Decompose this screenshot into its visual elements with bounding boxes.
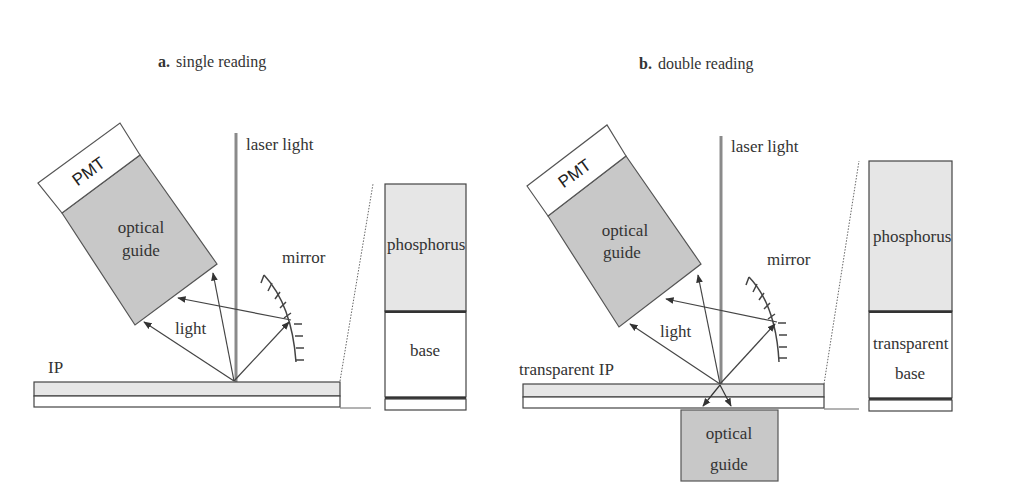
transparent-base-label-line1: transparent	[873, 334, 949, 353]
ip-label: IP	[48, 358, 63, 377]
lower-guide-label-line1: optical	[706, 424, 753, 443]
panel-a-title: a.single reading	[158, 53, 266, 71]
base-label: base	[410, 341, 440, 360]
panel-b-double-reading: b.double reading PMT optical guide laser…	[519, 55, 952, 481]
optical-guide-label-line1: optical	[118, 218, 165, 237]
pmt-guide-assembly-b: PMT optical guide	[527, 125, 701, 327]
light-label: light	[175, 319, 206, 338]
light-label: light	[660, 322, 691, 341]
ip-base-layer	[34, 396, 340, 407]
mirror-label: mirror	[767, 250, 811, 269]
panel-a-single-reading: a.single reading PMT optical guide laser…	[34, 53, 466, 410]
cross-section-inset: phosphorus transparent base	[869, 161, 952, 411]
optical-guide-label-line1: optical	[602, 221, 649, 240]
zoom-guide-line	[824, 161, 859, 384]
lower-optical-guide: optical guide	[681, 410, 778, 481]
lower-guide-label-line2: guide	[710, 455, 748, 474]
phosphorus-label: phosphorus	[387, 235, 465, 254]
phosphorus-label: phosphorus	[873, 227, 951, 246]
pmt-guide-assembly: PMT optical guide	[38, 123, 217, 325]
transparent-base-label-line2: base	[895, 364, 925, 383]
laser-label: laser light	[731, 137, 799, 156]
laser-label: laser light	[246, 135, 314, 154]
optical-guide-label-line2: guide	[603, 243, 641, 262]
zoom-guide-line	[340, 184, 373, 381]
mirror-label: mirror	[282, 248, 326, 267]
scanner-diagram: a.single reading PMT optical guide laser…	[0, 0, 1011, 504]
panel-b-title: b.double reading	[639, 55, 753, 73]
ip-phosphor-layer	[523, 384, 824, 397]
ip-phosphor-layer	[34, 382, 340, 396]
ip-transparent-base	[523, 397, 824, 408]
optical-guide-label-line2: guide	[122, 241, 160, 260]
cross-section-inset: phosphorus base	[385, 184, 466, 410]
transparent-ip-label: transparent IP	[519, 360, 614, 379]
